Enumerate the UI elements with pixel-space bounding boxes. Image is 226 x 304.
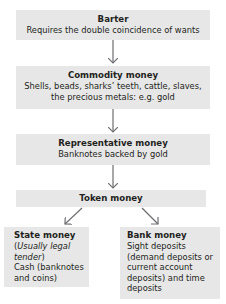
node-barter: Barter Requires the double coincidence o…	[16, 10, 210, 40]
node-state-title: State money	[14, 230, 89, 241]
node-token: Token money	[16, 190, 206, 207]
node-state-desc: Cash (banknotes and coins)	[14, 262, 86, 283]
node-state-qualifier: (Usually legal tender)	[14, 241, 86, 262]
node-commodity-title: Commodity money	[16, 70, 210, 81]
node-barter-title: Barter	[16, 14, 210, 25]
node-commodity-desc-line2: the precious metals: e.g. gold	[16, 92, 210, 103]
node-bank-desc: Sight deposits (demand deposits or curre…	[127, 241, 219, 294]
arrow-token-to-state	[65, 208, 82, 224]
node-representative-title: Representative money	[16, 138, 210, 149]
arrow-token-to-bank	[142, 208, 158, 224]
node-representative-desc: Banknotes backed by gold	[16, 149, 210, 160]
node-commodity-desc-line1: Shells, beads, sharks’ teeth, cattle, sl…	[16, 81, 210, 92]
node-state: State money (Usually legal tender) Cash …	[4, 227, 89, 287]
node-bank-title: Bank money	[127, 230, 220, 241]
node-bank: Bank money Sight deposits (demand deposi…	[120, 227, 220, 299]
node-commodity: Commodity money Shells, beads, sharks’ t…	[16, 66, 210, 109]
node-barter-desc: Requires the double coincidence of wants	[16, 25, 210, 36]
node-representative: Representative money Banknotes backed by…	[16, 134, 210, 165]
node-token-title: Token money	[16, 193, 206, 204]
